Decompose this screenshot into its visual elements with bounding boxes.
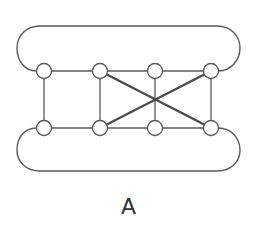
diagram-label: A	[0, 194, 257, 219]
node-b2	[93, 121, 108, 136]
node-t4	[204, 64, 219, 79]
node-b3	[148, 121, 163, 136]
node-t3	[148, 64, 163, 79]
node-b4	[204, 121, 219, 136]
node-t2	[93, 64, 108, 79]
node-t1	[37, 64, 52, 79]
node-b1	[37, 121, 52, 136]
